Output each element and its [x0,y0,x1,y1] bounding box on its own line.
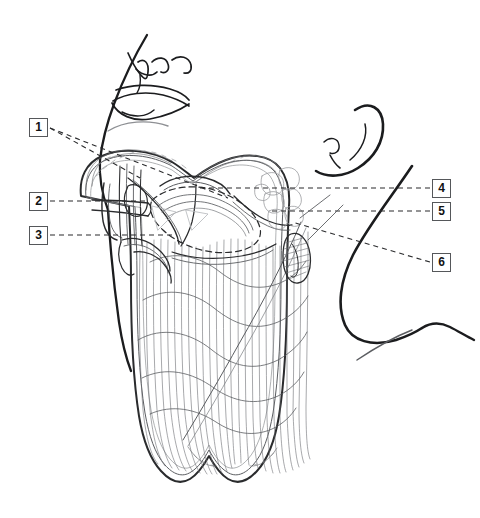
base-fold-left-1 [122,238,170,271]
papillae-stipple-band [86,150,280,466]
ear-tragus-line [324,138,339,153]
leader-lines-group [50,128,430,262]
horizontal-band-cap [148,203,151,216]
callout-box-1[interactable]: 1 [29,118,48,137]
nose-bridge-line [100,35,147,160]
chin-crease-line [108,122,168,131]
neck-contour-group [108,166,474,371]
tick-to-piriform [308,205,343,240]
shoulder-line-right [422,324,474,340]
callout-box-5[interactable]: 5 [432,202,451,221]
vertical-rod-3 [133,166,135,245]
lingual-tonsil-cluster [255,168,304,230]
anatomy-figure: 1 2 3 4 5 6 [0,0,480,518]
leader-tick-group [300,195,343,240]
ear-group [316,106,383,176]
oropharynx-detail-group [92,164,310,283]
ear-antihelix-line [350,124,366,160]
lip-line-vermilion [113,93,189,106]
callout-box-2[interactable]: 2 [29,192,48,211]
lower-lip-crease [122,110,154,116]
callout-box-4[interactable]: 4 [432,179,451,198]
nostril-right [152,58,169,72]
philtrum-line [137,75,140,93]
anatomy-illustration [0,0,480,518]
laryngeal-inlet-outline [150,187,260,253]
callout-box-6[interactable]: 6 [432,253,451,272]
tick-to-tonsil [300,195,330,218]
neck-right-contour [341,166,422,343]
nose-far-wing [172,57,191,73]
lower-lip-outline [112,103,189,120]
callout-box-3[interactable]: 3 [29,226,48,245]
horizontal-band-upper [92,200,148,203]
median-glossoepiglottic-fold [181,184,196,246]
clavicle-hint-line [357,330,412,360]
ear-lobe-line [330,155,340,168]
vertical-rod-2 [126,164,128,244]
